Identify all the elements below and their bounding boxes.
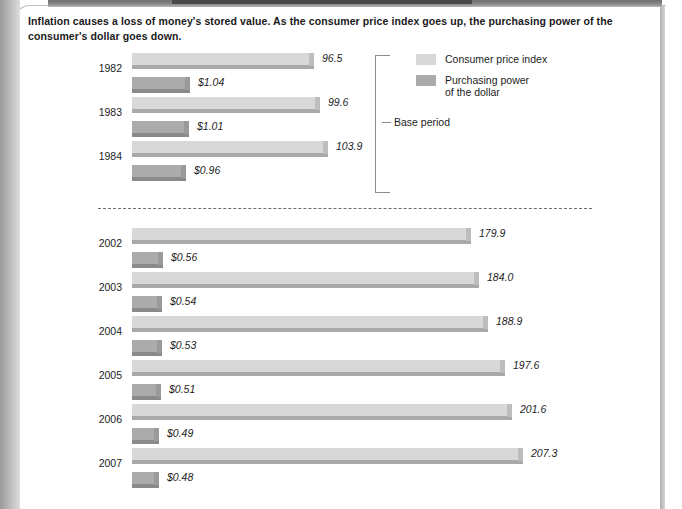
bar-shadow bbox=[132, 177, 186, 181]
bar-group-cpi: 184.0 bbox=[132, 272, 549, 291]
bar-consumer-price-index bbox=[132, 97, 320, 112]
bar-value-purchasing-power: $0.49 bbox=[167, 427, 193, 439]
bar-side bbox=[466, 228, 471, 241]
axis-break-dashed-line bbox=[98, 208, 592, 209]
bar-side bbox=[156, 384, 161, 397]
bar-shadow bbox=[132, 133, 189, 137]
bar-value-cpi: 179.9 bbox=[479, 227, 505, 239]
inflation-bar-chart: 198296.5$1.04198399.6$1.011984103.9$0.96… bbox=[0, 0, 682, 509]
bar-consumer-price-index bbox=[132, 141, 328, 156]
bar-group-cpi: 99.6 bbox=[132, 97, 390, 116]
bar-face bbox=[132, 97, 316, 109]
bar-consumer-price-index bbox=[132, 228, 471, 243]
bar-face bbox=[132, 340, 158, 352]
bar-face bbox=[132, 448, 519, 460]
bar-shadow bbox=[132, 284, 479, 288]
bar-value-cpi: 201.6 bbox=[520, 403, 546, 415]
bar-consumer-price-index bbox=[132, 448, 523, 463]
bar-group-cpi: 207.3 bbox=[132, 448, 593, 467]
bar-side bbox=[157, 340, 162, 353]
bar-shadow bbox=[132, 89, 190, 93]
bar-side bbox=[474, 272, 479, 285]
bar-side bbox=[315, 97, 320, 110]
base-period-label: Base period bbox=[394, 116, 450, 128]
year-label: 1984 bbox=[80, 150, 122, 162]
bar-value-purchasing-power: $0.96 bbox=[194, 164, 220, 176]
bar-face bbox=[132, 165, 182, 177]
bar-value-purchasing-power: $1.04 bbox=[198, 76, 224, 88]
legend-swatch-cpi-icon bbox=[416, 54, 436, 65]
bar-group-purchasing-power: $0.49 bbox=[132, 428, 229, 447]
bar-face bbox=[132, 272, 475, 284]
year-label: 2006 bbox=[80, 413, 122, 425]
year-label: 1982 bbox=[80, 62, 122, 74]
bar-face bbox=[132, 472, 155, 484]
bar-face bbox=[132, 316, 484, 328]
legend-item-cpi: Consumer price index bbox=[416, 53, 547, 66]
bar-side bbox=[158, 252, 163, 265]
bar-face bbox=[132, 296, 158, 308]
bar-side bbox=[154, 472, 159, 485]
bar-consumer-price-index bbox=[132, 404, 512, 419]
bar-group-purchasing-power: $0.54 bbox=[132, 296, 232, 315]
bar-consumer-price-index bbox=[132, 360, 505, 375]
bar-value-purchasing-power: $1.01 bbox=[197, 120, 223, 132]
bar-group-cpi: 188.9 bbox=[132, 316, 558, 335]
bar-value-purchasing-power: $0.53 bbox=[170, 339, 196, 351]
bar-purchasing-power bbox=[132, 165, 186, 180]
bar-shadow bbox=[132, 109, 320, 113]
bar-side bbox=[483, 316, 488, 329]
base-period-bracket bbox=[375, 55, 390, 193]
bar-group-purchasing-power: $0.56 bbox=[132, 252, 233, 271]
bar-face bbox=[132, 384, 157, 396]
bar-side bbox=[518, 448, 523, 461]
bar-side bbox=[154, 428, 159, 441]
bar-side bbox=[500, 360, 505, 373]
bar-purchasing-power bbox=[132, 472, 159, 487]
bar-value-purchasing-power: $0.48 bbox=[167, 471, 193, 483]
bar-face bbox=[132, 141, 324, 153]
bar-face bbox=[132, 53, 310, 65]
bar-purchasing-power bbox=[132, 384, 161, 399]
year-label: 2007 bbox=[80, 457, 122, 469]
bar-purchasing-power bbox=[132, 296, 162, 311]
year-label: 2005 bbox=[80, 369, 122, 381]
bar-consumer-price-index bbox=[132, 53, 314, 68]
bar-face bbox=[132, 252, 159, 264]
bar-face bbox=[132, 360, 501, 372]
year-label: 2002 bbox=[80, 237, 122, 249]
base-period-bracket-tick bbox=[382, 122, 391, 123]
legend-item-purchasing-power: Purchasing power of the dollar bbox=[416, 74, 547, 99]
bar-side bbox=[309, 53, 314, 66]
bar-value-cpi: 103.9 bbox=[336, 140, 362, 152]
bar-value-cpi: 188.9 bbox=[496, 315, 522, 327]
legend-label-purchasing-power: Purchasing power of the dollar bbox=[445, 74, 529, 99]
bar-group-purchasing-power: $0.96 bbox=[132, 165, 256, 184]
bar-shadow bbox=[132, 328, 488, 332]
bar-group-purchasing-power: $1.04 bbox=[132, 77, 260, 96]
bar-value-cpi: 207.3 bbox=[531, 447, 557, 459]
bar-side bbox=[157, 296, 162, 309]
legend-swatch-purchasing-power-icon bbox=[416, 75, 436, 86]
legend-label-cpi: Consumer price index bbox=[445, 53, 547, 66]
bar-purchasing-power bbox=[132, 340, 162, 355]
bar-value-cpi: 99.6 bbox=[328, 96, 348, 108]
bar-value-cpi: 197.6 bbox=[513, 359, 539, 371]
bar-group-cpi: 96.5 bbox=[132, 53, 384, 72]
bar-side bbox=[181, 165, 186, 178]
bar-value-cpi: 96.5 bbox=[322, 52, 342, 64]
bar-face bbox=[132, 77, 186, 89]
bar-group-cpi: 201.6 bbox=[132, 404, 582, 423]
bar-value-purchasing-power: $0.56 bbox=[171, 251, 197, 263]
bar-purchasing-power bbox=[132, 252, 163, 267]
bar-value-cpi: 184.0 bbox=[487, 271, 513, 283]
year-label: 1983 bbox=[80, 106, 122, 118]
bar-shadow bbox=[132, 460, 523, 464]
bar-value-purchasing-power: $0.54 bbox=[170, 295, 196, 307]
bar-value-purchasing-power: $0.51 bbox=[169, 383, 195, 395]
year-label: 2004 bbox=[80, 325, 122, 337]
bar-group-purchasing-power: $1.01 bbox=[132, 121, 259, 140]
chart-legend: Consumer price index Purchasing power of… bbox=[416, 53, 547, 107]
bar-purchasing-power bbox=[132, 428, 159, 443]
bar-shadow bbox=[132, 240, 471, 244]
